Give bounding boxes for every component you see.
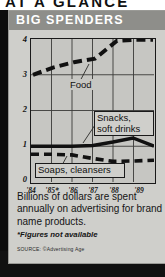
y-tick-1: 1 bbox=[13, 139, 27, 149]
panel-title: BIG SPENDERS bbox=[16, 13, 124, 27]
y-tick-4: 4 bbox=[13, 34, 27, 44]
source-credit: SOURCE: ©Advertising Age bbox=[17, 246, 163, 252]
series-label-soaps: Soaps, cleansers bbox=[35, 163, 125, 178]
masthead-title: AT A GLANCE bbox=[5, 0, 129, 10]
infographic-card: BIG SPENDERS 4 3 2 1 0 bbox=[9, 11, 165, 263]
y-tick-0: 0 bbox=[13, 174, 27, 184]
chart-plot-area: Food Snacks, soft drinks Soaps, cleanser… bbox=[30, 38, 156, 184]
series-label-snacks-line2: soft drinks bbox=[97, 124, 151, 135]
series-label-snacks: Snacks, soft drinks bbox=[94, 111, 154, 136]
caption-footnote: *Figures not available bbox=[17, 230, 163, 239]
series-label-food: Food bbox=[69, 79, 93, 90]
panel-title-band: BIG SPENDERS bbox=[9, 11, 165, 30]
masthead-banner: AT A GLANCE bbox=[0, 0, 165, 10]
y-tick-2: 2 bbox=[13, 104, 27, 114]
caption-body: Billions of dollars are spent annually o… bbox=[17, 191, 163, 228]
infographic-root: AT A GLANCE BIG SPENDERS 4 3 2 1 0 bbox=[0, 0, 165, 277]
y-tick-3: 3 bbox=[13, 69, 27, 79]
series-label-snacks-line1: Snacks, bbox=[97, 113, 151, 124]
series-line-food bbox=[33, 40, 153, 75]
